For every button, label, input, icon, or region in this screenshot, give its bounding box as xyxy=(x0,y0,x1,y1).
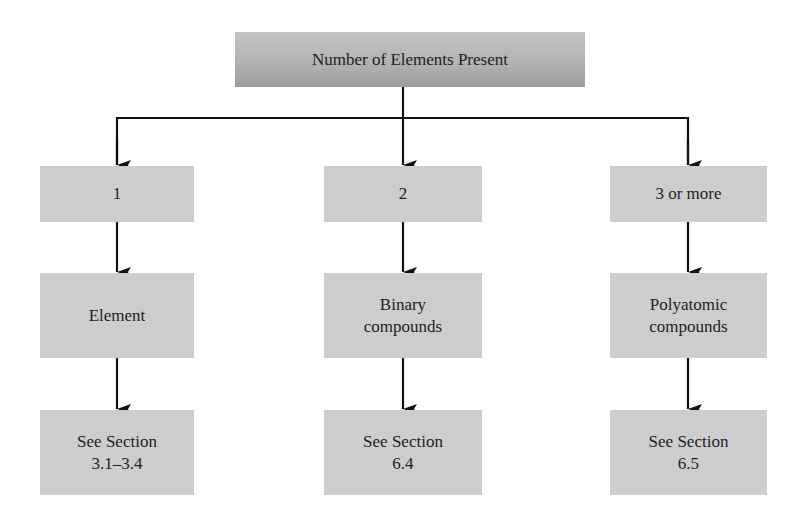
reference-node-1: See Section 3.1–3.4 xyxy=(40,410,194,495)
count-node-1: 1 xyxy=(40,166,194,222)
count-node-label: 1 xyxy=(113,183,122,205)
count-node-3-or-more: 3 or more xyxy=(610,166,767,222)
reference-node-label: See Section 3.1–3.4 xyxy=(77,431,157,475)
reference-node-3: See Section 6.5 xyxy=(610,410,767,495)
root-node-label: Number of Elements Present xyxy=(312,49,508,71)
reference-node-label: See Section 6.4 xyxy=(363,431,443,475)
reference-node-2: See Section 6.4 xyxy=(324,410,482,495)
category-node-label: Polyatomic compounds xyxy=(649,294,727,338)
category-node-polyatomic: Polyatomic compounds xyxy=(610,273,767,358)
category-node-label: Element xyxy=(89,305,146,327)
count-node-label: 2 xyxy=(399,183,408,205)
root-node: Number of Elements Present xyxy=(235,32,585,87)
category-node-binary: Binary compounds xyxy=(324,273,482,358)
category-node-label: Binary compounds xyxy=(364,294,442,338)
reference-node-label: See Section 6.5 xyxy=(649,431,729,475)
count-node-2: 2 xyxy=(324,166,482,222)
category-node-element: Element xyxy=(40,273,194,358)
count-node-label: 3 or more xyxy=(655,183,721,205)
